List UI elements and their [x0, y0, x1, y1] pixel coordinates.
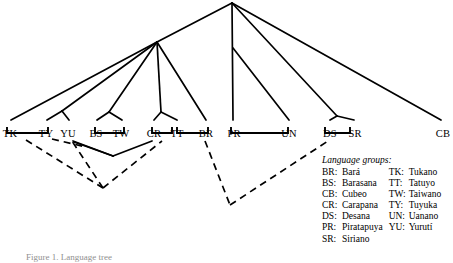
- leaf-label-yu: YU: [60, 128, 76, 139]
- leaf-label-br: BR: [199, 128, 213, 139]
- legend-code: CB:: [322, 189, 342, 200]
- ty-fork-to-ty: [47, 111, 62, 120]
- link-vertex-to-bs-tw: [113, 141, 152, 156]
- legend-entry-un: UN:Uanano: [389, 211, 442, 222]
- apex-to-ds-sr-node: [232, 3, 337, 116]
- legend-entry-tt: TT:Tatuyo: [389, 178, 442, 189]
- legend: Language groups: BR:BaráBS:BarasanaCB:Cu…: [322, 155, 450, 245]
- legend-name: Taiwano: [409, 189, 442, 200]
- leaf-label-tw: TW: [113, 128, 130, 139]
- legend-code: BS:: [322, 178, 342, 189]
- legend-code: TT:: [389, 178, 409, 189]
- ty-fork-to-yu: [62, 111, 69, 120]
- legend-name: Siriano: [342, 234, 383, 245]
- cr-node-to-tt: [161, 112, 177, 120]
- dashed-ty-cross: [52, 139, 86, 147]
- solid-link-group: [73, 141, 152, 156]
- legend-entry-cr: CR:Carapana: [322, 200, 383, 211]
- left-node-to-tk: [11, 42, 157, 120]
- legend-name: Uanano: [409, 211, 442, 222]
- leaf-label-pr: PR: [227, 128, 240, 139]
- legend-entry-cb: CB:Cubeo: [322, 189, 383, 200]
- leaf-label-tt: TT: [170, 128, 183, 139]
- legend-column-left: BR:BaráBS:BarasanaCB:CubeoCR:CarapanaDS:…: [322, 167, 383, 245]
- apex-to-un: [233, 48, 289, 120]
- legend-name: Bará: [342, 167, 383, 178]
- ds-node-to-sr: [337, 116, 354, 120]
- leaf-label-ty: TY: [39, 128, 53, 139]
- legend-columns: BR:BaráBS:BarasanaCB:CubeoCR:CarapanaDS:…: [322, 167, 450, 245]
- legend-entry-ds: DS:Desana: [322, 211, 383, 222]
- cr-node-to-cr: [154, 112, 161, 120]
- leaf-label-cb: CB: [436, 128, 450, 139]
- leaf-label-bs: BS: [89, 128, 102, 139]
- apex-to-pr: [232, 3, 233, 120]
- legend-code: TK:: [389, 167, 409, 178]
- legend-entry-pr: PR:Piratapuya: [322, 222, 383, 233]
- legend-entry-yu: YU:Yurutí: [389, 222, 442, 233]
- dashed-br-to-v2: [205, 141, 230, 205]
- legend-entry-ty: TY:Tuyuka: [389, 200, 442, 211]
- legend-name: Barasana: [342, 178, 383, 189]
- ds-node-to-ds: [330, 116, 337, 120]
- legend-entry-bs: BS:Barasana: [322, 178, 383, 189]
- legend-code: SR:: [322, 234, 342, 245]
- legend-name: Tukano: [409, 167, 442, 178]
- legend-code: TW:: [389, 189, 409, 200]
- leaf-label-cr: CR: [147, 128, 161, 139]
- left-node-to-ty-fork: [62, 42, 157, 111]
- legend-name: Piratapuya: [342, 222, 383, 233]
- legend-code: PR:: [322, 222, 342, 233]
- leaf-label-un: UN: [281, 128, 297, 139]
- legend-name: Tuyuka: [409, 200, 442, 211]
- legend-entry-sr: SR:Siriano: [322, 234, 383, 245]
- bs-node-to-bs: [97, 112, 109, 120]
- figure-caption: Figure 1. Language tree: [26, 252, 112, 262]
- legend-code: UN:: [389, 211, 409, 222]
- legend-code: TY:: [389, 200, 409, 211]
- solid-edge-group: [11, 3, 441, 120]
- legend-name: Cubeo: [342, 189, 383, 200]
- apex-to-left-node: [157, 3, 232, 42]
- legend-entry-tw: TW:Taiwano: [389, 189, 442, 200]
- leaf-label-ds: DS: [323, 128, 337, 139]
- legend-code: BR:: [322, 167, 342, 178]
- left-node-to-cr-node: [157, 42, 161, 112]
- legend-name: Carapana: [342, 200, 383, 211]
- legend-code: CR:: [322, 200, 342, 211]
- legend-title: Language groups:: [322, 155, 450, 166]
- legend-name: Yurutí: [409, 222, 442, 233]
- dashed-v2-to-ds: [230, 141, 328, 205]
- legend-column-right: TK:TukanoTT:TatuyoTW:TaiwanoTY:TuyukaUN:…: [389, 167, 442, 234]
- legend-entry-br: BR:Bará: [322, 167, 383, 178]
- legend-entry-tk: TK:Tukano: [389, 167, 442, 178]
- apex-to-cb: [232, 3, 441, 120]
- dashed-link-group: [26, 138, 328, 205]
- left-node-to-bs-node: [109, 42, 157, 112]
- bs-node-to-tw: [109, 112, 122, 120]
- leaf-label-sr: SR: [348, 128, 361, 139]
- legend-code: DS:: [322, 211, 342, 222]
- legend-code: YU:: [389, 222, 409, 233]
- language-tree-figure: TKTYYUBSTWCRTTBRPRUNDSSRCB Language grou…: [0, 0, 453, 263]
- legend-name: Desana: [342, 211, 383, 222]
- left-node-to-br: [157, 42, 206, 120]
- leaf-label-tk: TK: [3, 128, 17, 139]
- legend-name: Tatuyo: [409, 178, 442, 189]
